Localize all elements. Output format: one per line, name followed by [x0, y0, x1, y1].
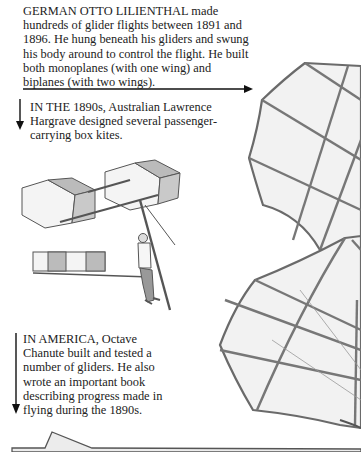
- caption-lead: GERMAN OTTO LILIENTHAL: [23, 4, 188, 18]
- lower-glider-wing: [220, 236, 361, 428]
- arrow-down-icon: [12, 333, 20, 414]
- caption-chanute: IN AMERICA, Octave Chanute built and tes…: [23, 332, 163, 417]
- caption-lead: IN AMERICA,: [23, 332, 99, 346]
- caption-hargrave: IN THE 1890s, Australian Lawrence Hargra…: [30, 100, 230, 143]
- box-kite-glider: [22, 160, 180, 310]
- caption-lilienthal: GERMAN OTTO LILIENTHAL made hundreds of …: [23, 4, 253, 89]
- caption-lead: IN THE 1890s,: [30, 100, 106, 114]
- bottom-glider-edge: [12, 420, 361, 452]
- upper-glider-wing: [249, 63, 361, 250]
- arrow-down-icon: [16, 99, 24, 130]
